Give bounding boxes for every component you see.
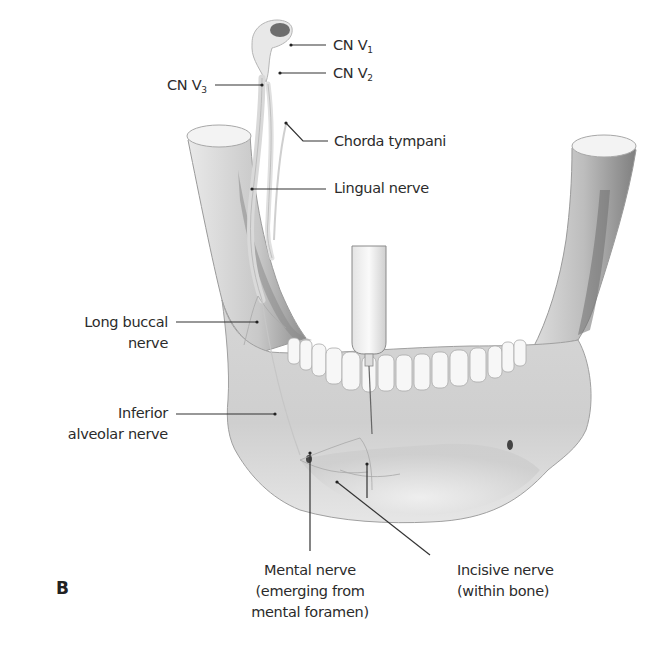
label-chorda-tympani: Chorda tympani <box>334 131 446 152</box>
label-long-buccal-nerve: Long buccal nerve <box>40 312 168 354</box>
label-cn-v3: CN V3 <box>167 75 207 101</box>
panel-letter: B <box>56 578 69 598</box>
label-cn-v1: CN V1 <box>333 35 373 61</box>
label-lingual-nerve: Lingual nerve <box>334 178 429 199</box>
label-mental-nerve: Mental nerve (emerging from mental foram… <box>240 560 380 623</box>
label-inferior-alveolar-nerve: Inferior alveolar nerve <box>30 403 168 445</box>
label-incisive-nerve: Incisive nerve (within bone) <box>457 560 554 602</box>
label-cn-v2: CN V2 <box>333 63 373 89</box>
mandible-nerve-figure: CN V1 CN V2 CN V3 Chorda tympani Lingual… <box>0 0 663 668</box>
